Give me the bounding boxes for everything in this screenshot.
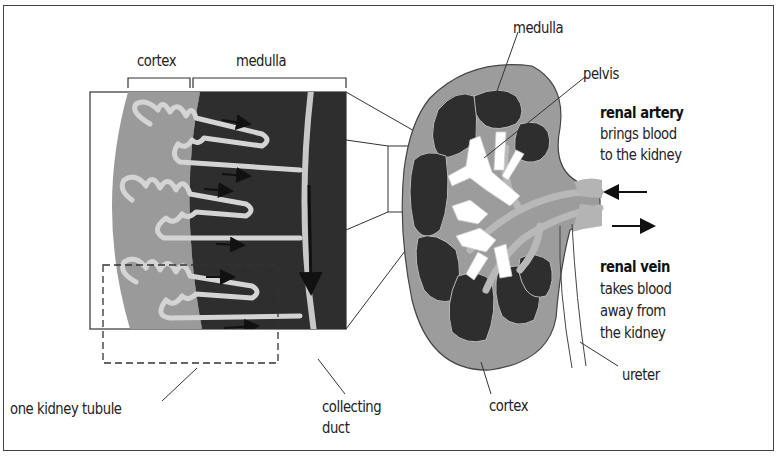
- label-collecting-duct-1: collecting: [322, 398, 381, 417]
- label-ureter: ureter: [622, 366, 660, 385]
- label-collecting-duct-2: duct: [322, 419, 349, 438]
- label-pelvis: pelvis: [583, 65, 619, 84]
- label-renal-vein-line3: the kidney: [600, 324, 665, 343]
- label-mag-cortex: cortex: [137, 52, 176, 71]
- kidney-diagram: [0, 0, 780, 456]
- label-renal-vein-title: renal vein: [600, 258, 670, 277]
- label-renal-artery-line1: brings blood: [600, 125, 677, 144]
- label-renal-vein-line2: away from: [600, 302, 666, 321]
- label-kidney-tubule: one kidney tubule: [10, 400, 122, 419]
- label-kidney-cortex: cortex: [489, 397, 528, 416]
- label-kidney-medulla: medulla: [513, 19, 563, 38]
- label-renal-vein-line1: takes blood: [600, 280, 671, 299]
- magnified-section: [90, 78, 346, 401]
- cortex-region: [112, 92, 202, 329]
- label-renal-artery-line2: to the kidney: [600, 146, 682, 165]
- label-mag-medulla: medulla: [236, 52, 286, 71]
- label-renal-artery-title: renal artery: [600, 104, 683, 123]
